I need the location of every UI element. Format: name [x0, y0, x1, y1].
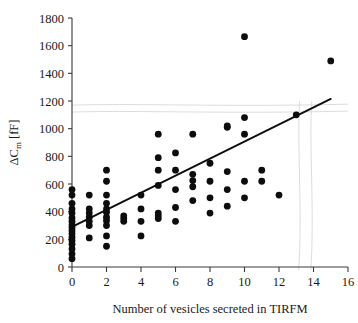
data-point	[327, 57, 334, 64]
x-tick-label: 16	[342, 275, 355, 289]
data-point	[172, 204, 179, 211]
chart-canvas: 020040060080010001200140016001800 024681…	[0, 0, 358, 323]
y-tick-label: 400	[45, 205, 64, 219]
y-tick-label: 1200	[39, 95, 64, 109]
data-point	[103, 243, 110, 250]
data-point	[189, 171, 196, 178]
data-point	[86, 235, 93, 242]
data-point	[69, 186, 76, 193]
data-point	[69, 200, 76, 207]
data-point	[241, 178, 248, 185]
y-axis-title-text: ΔCm [fF]	[7, 120, 23, 166]
scatter-plot-figure: 020040060080010001200140016001800 024681…	[0, 0, 358, 323]
y-tick-label: 1600	[39, 39, 64, 53]
data-point	[103, 192, 110, 199]
y-tick-label: 1800	[39, 12, 64, 26]
data-point	[155, 167, 162, 174]
data-point	[138, 218, 145, 225]
y-axis-title-subscript: m	[13, 142, 23, 149]
data-point	[172, 167, 179, 174]
data-point	[207, 194, 214, 201]
data-point	[189, 183, 196, 190]
y-tick-label: 200	[45, 233, 64, 247]
data-point	[207, 210, 214, 217]
x-tick-label: 12	[273, 275, 286, 289]
y-axis-title-unit: [fF]	[7, 120, 21, 143]
x-tick-label: 10	[238, 275, 251, 289]
data-point	[155, 210, 162, 217]
data-point	[189, 197, 196, 204]
data-point	[86, 192, 93, 199]
data-point	[138, 206, 145, 213]
data-point	[103, 232, 110, 239]
data-point	[276, 192, 283, 199]
data-point	[241, 114, 248, 121]
data-point	[138, 232, 145, 239]
y-tick-label: 800	[45, 150, 64, 164]
data-point	[241, 131, 248, 138]
y-tick-label: 600	[45, 178, 64, 192]
data-point	[258, 167, 265, 174]
x-axis-title-text: Number of vesicles secreted in TIRFM	[112, 302, 307, 316]
data-point	[189, 131, 196, 138]
data-point	[103, 178, 110, 185]
data-point	[155, 154, 162, 161]
data-point	[189, 177, 196, 184]
data-point	[172, 218, 179, 225]
x-tick-label: 8	[207, 275, 213, 289]
x-tick-label: 14	[307, 275, 320, 289]
x-tick-label: 2	[103, 275, 109, 289]
x-tick-label: 4	[138, 275, 145, 289]
data-point	[241, 194, 248, 201]
data-point	[224, 203, 231, 210]
y-axis-title-main: ΔC	[7, 149, 21, 165]
y-tick-label: 1400	[39, 67, 64, 81]
y-tick-label: 0	[58, 261, 64, 275]
data-point	[155, 131, 162, 138]
data-point	[224, 123, 231, 130]
data-point	[241, 33, 248, 40]
y-axis-title: ΔCm [fF]	[7, 120, 23, 166]
y-tick-label: 1000	[39, 122, 64, 136]
data-point	[172, 186, 179, 193]
data-point	[258, 178, 265, 185]
data-point	[103, 167, 110, 174]
data-point	[86, 206, 93, 213]
data-point	[120, 212, 127, 219]
data-point	[103, 200, 110, 207]
x-tick-label: 6	[172, 275, 178, 289]
x-tick-label: 0	[69, 275, 75, 289]
data-point	[224, 186, 231, 193]
data-point	[207, 178, 214, 185]
data-point	[172, 149, 179, 156]
data-point	[224, 168, 231, 175]
